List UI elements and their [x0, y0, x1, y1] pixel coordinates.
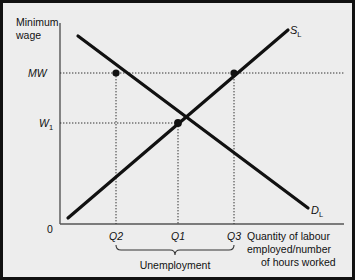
y-axis-title: Minimum wage [15, 16, 59, 41]
y-axis-tick-labels: MW W1 [28, 67, 53, 132]
y-tick-label-equilibrium-wage-subscript: 1 [49, 123, 53, 132]
x-tick-label-q2: Q2 [109, 230, 123, 242]
x-axis-title-line-3: of hours worked [261, 256, 336, 268]
demand-curve-label-main: D [311, 204, 319, 216]
y-axis-title-line-1: Minimum [16, 16, 59, 28]
x-axis-tick-labels: Q2 Q1 Q3 [109, 230, 241, 242]
demand-for-labour-curve [78, 36, 308, 208]
x-axis-title: Quantity of labour employed/number of ho… [247, 230, 336, 268]
marker-demand-at-minimum-wage [112, 69, 119, 76]
origin-label: 0 [47, 223, 53, 235]
chart-markers [112, 69, 237, 127]
supply-curve-label-subscript: L [297, 30, 301, 39]
y-tick-label-equilibrium-wage: W1 [39, 117, 53, 132]
x-axis-title-line-1: Quantity of labour [247, 230, 330, 242]
economics-diagram-figure: Minimum wage MW W1 0 Q2 Q1 Q3 SL DL Unem… [0, 0, 355, 280]
y-tick-label-minimum-wage: MW [28, 67, 48, 79]
demand-curve-label: DL [311, 204, 323, 219]
supply-curve-label: SL [290, 24, 302, 39]
marker-supply-at-minimum-wage [230, 69, 237, 76]
unemployment-brace-icon [116, 245, 234, 255]
chart-curves [68, 30, 308, 218]
x-tick-label-q1: Q1 [171, 230, 185, 242]
unemployment-label: Unemployment [140, 259, 211, 271]
y-axis-title-line-2: wage [15, 29, 41, 41]
labour-market-chart: Minimum wage MW W1 0 Q2 Q1 Q3 SL DL Unem… [3, 3, 355, 280]
x-axis-title-line-2: employed/number [247, 243, 332, 255]
x-tick-label-q3: Q3 [227, 230, 241, 242]
marker-market-equilibrium [174, 119, 182, 127]
unemployment-annotation: Unemployment [116, 245, 234, 271]
demand-curve-label-subscript: L [319, 210, 323, 219]
